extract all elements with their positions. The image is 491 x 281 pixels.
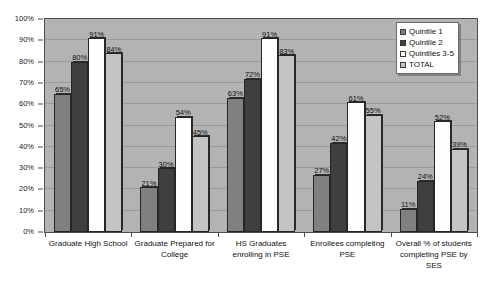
- legend: Quintile 1Quintile 2Quintiles 3-5TOTAL: [396, 22, 459, 74]
- y-axis-tick-label: 50%: [19, 122, 34, 130]
- legend-item[interactable]: Quintiles 3-5: [400, 48, 454, 59]
- y-axis-tick-label: 100%: [15, 15, 34, 23]
- bar-slot: 30%: [158, 19, 175, 232]
- bar[interactable]: 91%: [261, 38, 278, 232]
- bar[interactable]: 61%: [347, 102, 364, 232]
- legend-item-label: Quintile 2: [409, 39, 443, 47]
- bar-group-bars: 27%42%61%55%: [304, 19, 390, 232]
- bar-slot: 80%: [71, 19, 88, 232]
- bar-slot: 65%: [54, 19, 71, 232]
- bar-value-label: 24%: [418, 173, 433, 181]
- bar-value-label: 91%: [89, 31, 104, 39]
- bar-slot: 83%: [278, 19, 295, 232]
- bar-value-label: 30%: [159, 161, 174, 169]
- bar-chart: 0%10%20%30%40%50%60%70%80%90%100% 65%80%…: [0, 0, 491, 281]
- x-axis-category-label: HS Graduates enrolling in PSE: [218, 238, 304, 280]
- bar[interactable]: 72%: [244, 79, 261, 232]
- bar[interactable]: 27%: [313, 175, 330, 233]
- y-axis-tick-mark: [38, 104, 43, 105]
- bar[interactable]: 80%: [71, 62, 88, 232]
- x-axis: Graduate High SchoolGraduate Prepared fo…: [45, 238, 477, 280]
- bar-value-label: 72%: [245, 71, 260, 79]
- bar-value-label: 45%: [193, 129, 208, 137]
- bar-slot: 91%: [88, 19, 105, 232]
- bar[interactable]: 11%: [400, 209, 417, 232]
- bar-slot: 27%: [313, 19, 330, 232]
- y-axis-tick-mark: [38, 168, 43, 169]
- bar-group-bars: 63%72%91%83%: [218, 19, 304, 232]
- bar-group-bars: 65%80%91%84%: [45, 19, 131, 232]
- y-axis-tick-label: 10%: [19, 207, 34, 215]
- y-axis-tick-label: 70%: [19, 79, 34, 87]
- legend-item[interactable]: Quintile 1: [400, 26, 454, 37]
- x-axis-tick-mark: [45, 233, 46, 237]
- bar-value-label: 84%: [106, 46, 121, 54]
- bar[interactable]: 91%: [88, 38, 105, 232]
- legend-swatch-icon: [400, 29, 406, 35]
- bar-value-label: 91%: [262, 31, 277, 39]
- bar-value-label: 55%: [366, 107, 381, 115]
- bar-slot: 84%: [105, 19, 122, 232]
- x-axis-category-label: Enrollees completing PSE: [304, 238, 390, 280]
- bar[interactable]: 30%: [158, 168, 175, 232]
- y-axis-tick-mark: [38, 189, 43, 190]
- legend-item[interactable]: Quintile 2: [400, 37, 454, 48]
- y-axis-tick-mark: [38, 40, 43, 41]
- y-axis-tick-label: 90%: [19, 37, 34, 45]
- bar-value-label: 63%: [228, 90, 243, 98]
- y-axis-tick-label: 40%: [19, 143, 34, 151]
- legend-item-label: TOTAL: [409, 61, 434, 69]
- y-axis-tick-label: 30%: [19, 164, 34, 172]
- bar-group: 65%80%91%84%: [45, 19, 131, 232]
- bar[interactable]: 84%: [105, 53, 122, 232]
- bar-value-label: 54%: [176, 109, 191, 117]
- x-axis-tick-mark: [477, 233, 478, 237]
- y-axis-tick-mark: [38, 82, 43, 83]
- x-axis-tick-mark: [131, 233, 132, 237]
- y-axis: 0%10%20%30%40%50%60%70%80%90%100%: [0, 18, 40, 233]
- bar[interactable]: 45%: [192, 136, 209, 232]
- legend-swatch-icon: [400, 40, 406, 46]
- y-axis-tick-mark: [38, 61, 43, 62]
- y-axis-tick-mark: [38, 210, 43, 211]
- bar-slot: 21%: [140, 19, 157, 232]
- bar[interactable]: 42%: [330, 143, 347, 232]
- bar-value-label: 11%: [401, 201, 415, 209]
- y-axis-tick-label: 0%: [23, 228, 34, 236]
- bar[interactable]: 39%: [451, 149, 468, 232]
- x-axis-tick-mark: [304, 233, 305, 237]
- bar-value-label: 52%: [435, 114, 450, 122]
- x-axis-category-label: Overall % of students completing PSE by …: [391, 238, 477, 280]
- legend-swatch-icon: [400, 62, 406, 68]
- legend-item[interactable]: TOTAL: [400, 59, 454, 70]
- legend-item-label: Quintile 1: [409, 28, 443, 36]
- x-axis-category-label: Graduate High School: [45, 238, 131, 280]
- bar-slot: 91%: [261, 19, 278, 232]
- legend-swatch-icon: [400, 51, 406, 57]
- bar-value-label: 42%: [331, 135, 346, 143]
- bar[interactable]: 63%: [227, 98, 244, 232]
- x-axis-category-label: Graduate Prepared for College: [131, 238, 217, 280]
- bar[interactable]: 21%: [140, 187, 157, 232]
- bar-slot: 55%: [365, 19, 382, 232]
- bar[interactable]: 54%: [175, 117, 192, 232]
- bar-slot: 72%: [244, 19, 261, 232]
- y-axis-tick-mark: [38, 146, 43, 147]
- bar-slot: 61%: [347, 19, 364, 232]
- bar[interactable]: 24%: [417, 181, 434, 232]
- bar-group-bars: 21%30%54%45%: [131, 19, 217, 232]
- y-axis-tick-mark: [38, 19, 43, 20]
- bar[interactable]: 52%: [434, 121, 451, 232]
- bar-value-label: 83%: [279, 48, 294, 56]
- x-axis-tick-mark: [218, 233, 219, 237]
- bar-slot: 54%: [175, 19, 192, 232]
- bar[interactable]: 83%: [278, 55, 295, 232]
- bar-slot: 42%: [330, 19, 347, 232]
- bar[interactable]: 55%: [365, 115, 382, 232]
- bar-value-label: 65%: [55, 86, 70, 94]
- bar[interactable]: 65%: [54, 94, 71, 232]
- bar-value-label: 21%: [141, 180, 156, 188]
- bar-slot: 63%: [227, 19, 244, 232]
- y-axis-tick-mark: [38, 125, 43, 126]
- bar-value-label: 27%: [314, 167, 329, 175]
